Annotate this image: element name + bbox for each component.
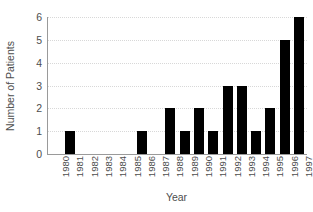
bar: [165, 108, 175, 154]
x-tick-slot: 1984: [105, 156, 119, 190]
x-tick-slot: 1981: [62, 156, 76, 190]
bar-slot: [149, 17, 163, 154]
y-axis-tick-label: 5: [24, 34, 42, 46]
bar: [237, 86, 247, 155]
bar-slot: [178, 17, 192, 154]
y-axis-tick-label: 2: [24, 102, 42, 114]
x-tick-slot: 1990: [191, 156, 205, 190]
bar: [294, 17, 304, 154]
y-axis-tick-label: 1: [24, 125, 42, 137]
bar-slot: [278, 17, 292, 154]
x-tick-slot: 1980: [48, 156, 62, 190]
x-tick-slot: 1989: [177, 156, 191, 190]
y-axis-tick-label: 6: [24, 11, 42, 23]
bar-slot: [135, 17, 149, 154]
y-axis-tick-label: 0: [24, 148, 42, 160]
x-tick-slot: 1997: [291, 156, 305, 190]
bar-slot: [120, 17, 134, 154]
x-tick-slot: 1985: [119, 156, 133, 190]
bar: [208, 131, 218, 154]
x-axis-tick-labels: 1980198119821983198419851986198719881989…: [47, 156, 306, 190]
plot-area: [47, 17, 307, 155]
x-tick-slot: 1982: [77, 156, 91, 190]
y-axis-title: Number of Patients: [2, 6, 18, 166]
bar: [194, 108, 204, 154]
bar: [137, 131, 147, 154]
x-tick-slot: 1983: [91, 156, 105, 190]
bar-slot: [78, 17, 92, 154]
bar-slot: [92, 17, 106, 154]
bar: [65, 131, 75, 154]
bar-slot: [292, 17, 306, 154]
x-tick-slot: 1988: [162, 156, 176, 190]
bar-slot: [63, 17, 77, 154]
bar: [180, 131, 190, 154]
bar-series: [48, 17, 307, 154]
bar-slot: [220, 17, 234, 154]
bar-slot: [206, 17, 220, 154]
x-tick-slot: 1996: [277, 156, 291, 190]
bar: [280, 40, 290, 154]
bar-slot: [163, 17, 177, 154]
y-axis-tick-label: 4: [24, 57, 42, 69]
bar-slot: [263, 17, 277, 154]
bar: [265, 108, 275, 154]
bar-chart: Number of Patients 6543210 1980198119821…: [0, 0, 313, 212]
x-tick-slot: 1993: [234, 156, 248, 190]
y-axis-tick-labels: 6543210: [24, 17, 42, 154]
x-axis-tick-label: 1997: [303, 156, 313, 177]
x-tick-slot: 1987: [148, 156, 162, 190]
x-tick-slot: 1994: [248, 156, 262, 190]
bar-slot: [192, 17, 206, 154]
x-axis-title: Year: [47, 191, 306, 203]
bar: [223, 86, 233, 155]
x-tick-slot: 1986: [134, 156, 148, 190]
bar-slot: [235, 17, 249, 154]
bar: [251, 131, 261, 154]
bar-slot: [49, 17, 63, 154]
bar-slot: [249, 17, 263, 154]
x-tick-slot: 1992: [219, 156, 233, 190]
x-tick-slot: 1991: [205, 156, 219, 190]
bar-slot: [106, 17, 120, 154]
y-axis-tick-label: 3: [24, 80, 42, 92]
x-tick-slot: 1995: [262, 156, 276, 190]
